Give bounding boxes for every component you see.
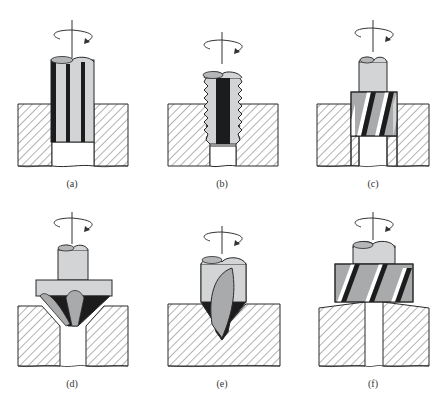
- panel-label: (c): [353, 178, 393, 189]
- rotation-arrow-icon: [54, 20, 92, 58]
- panel-label: (f): [353, 378, 393, 389]
- panel-label: (d): [52, 378, 92, 389]
- panel-label: (e): [202, 378, 242, 389]
- reamer-tool: [51, 57, 94, 143]
- tap-tool: [203, 72, 242, 145]
- panel-f-spot-facing: (f): [297, 198, 447, 398]
- workpiece: [319, 302, 429, 367]
- panel-d-countersinking: (d): [0, 198, 150, 398]
- panel-c-counterboring: (c): [297, 0, 447, 198]
- counterbore-tool: [351, 57, 397, 136]
- panel-b-tapping: (b): [150, 0, 300, 198]
- rotation-arrow-icon: [54, 212, 92, 244]
- panel-a-reaming: (a): [0, 0, 150, 198]
- rotation-arrow-icon: [355, 212, 393, 240]
- rotation-arrow-icon: [355, 20, 393, 52]
- panel-label: (a): [52, 178, 92, 189]
- rotation-arrow-icon: [204, 226, 242, 254]
- spot-face-tool: [335, 241, 413, 302]
- panel-label: (b): [202, 178, 242, 189]
- panel-e-center-drilling: (e): [150, 198, 300, 398]
- rotation-arrow-icon: [204, 32, 242, 64]
